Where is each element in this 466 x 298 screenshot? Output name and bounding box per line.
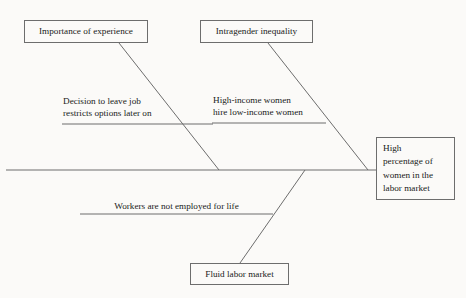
fishbone-diagram: Importance of experience Intragender ine… xyxy=(0,0,466,298)
subcause-line-1-workers-not-employed-for-life: Workers are not employed for life xyxy=(80,200,273,212)
effect-line-2: percentage of xyxy=(383,155,433,168)
effect-text-block: High percentage of women in the labor ma… xyxy=(383,142,433,194)
effect-box[interactable]: High percentage of women in the labor ma… xyxy=(376,137,455,200)
effect-line-3: women in the xyxy=(383,169,433,182)
subcause-line-1-high-income-women: High-income women xyxy=(213,94,343,106)
cause-label-importance-of-experience: Importance of experience xyxy=(39,26,133,37)
effect-line-4: labor market xyxy=(383,182,433,195)
subcause-line-1-decision-to-leave-job: Decision to leave job xyxy=(63,95,215,107)
effect-line-1: High xyxy=(383,142,433,155)
branch-line-fluid-labor-market xyxy=(240,170,305,263)
cause-box-intragender-inequality[interactable]: Intragender inequality xyxy=(200,20,313,43)
subcause-label-high-income-women: High-income women hire low-income women xyxy=(213,94,343,119)
subcause-line-2-decision-to-leave-job: restricts options later on xyxy=(63,107,215,119)
subcause-line-2-high-income-women: hire low-income women xyxy=(213,106,343,118)
cause-label-intragender-inequality: Intragender inequality xyxy=(216,26,297,37)
subcause-label-decision-to-leave-job: Decision to leave job restricts options … xyxy=(63,95,215,120)
cause-box-importance-of-experience[interactable]: Importance of experience xyxy=(24,20,148,43)
subcause-label-workers-not-employed-for-life: Workers are not employed for life xyxy=(80,200,273,212)
cause-box-fluid-labor-market[interactable]: Fluid labor market xyxy=(190,263,289,285)
cause-label-fluid-labor-market: Fluid labor market xyxy=(205,269,273,280)
